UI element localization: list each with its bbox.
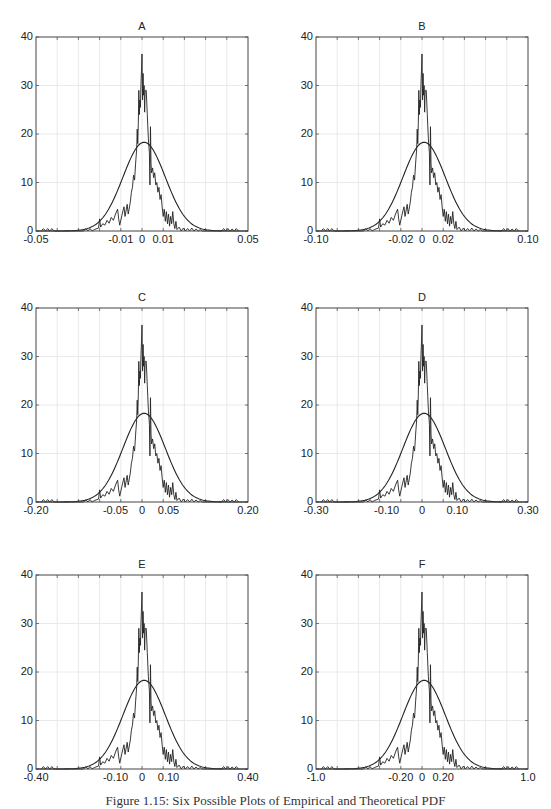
- y-tick-label: 30: [13, 350, 33, 362]
- chart-panel-c: C010203040-0.20-0.0500.050.20: [36, 308, 248, 502]
- y-tick-label: 20: [13, 398, 33, 410]
- x-tick-label: -1.0: [296, 771, 336, 783]
- x-tick-label: 0.05: [149, 504, 189, 516]
- x-tick-label: 0.10: [437, 504, 477, 516]
- x-tick-label: 0.20: [423, 771, 463, 783]
- x-tick-label: 0.05: [228, 233, 268, 245]
- x-tick-label: 0.10: [508, 233, 548, 245]
- empirical-pdf-curve: [321, 54, 518, 231]
- y-tick-label: 40: [13, 301, 33, 313]
- chart-panel-a: A010203040-0.05-0.0100.010.05: [36, 37, 248, 231]
- x-tick-label: 0.30: [508, 504, 548, 516]
- y-tick-label: 30: [293, 350, 313, 362]
- chart-title: A: [36, 20, 248, 32]
- x-tick-label: 0.01: [143, 233, 183, 245]
- x-tick-label: -0.40: [16, 771, 56, 783]
- chart-title: F: [316, 558, 528, 570]
- y-tick-label: 40: [13, 30, 33, 42]
- empirical-pdf-curve: [41, 54, 238, 231]
- y-tick-label: 40: [293, 30, 313, 42]
- y-tick-label: 20: [293, 127, 313, 139]
- y-tick-label: 10: [13, 447, 33, 459]
- y-tick-label: 10: [293, 714, 313, 726]
- x-tick-label: 0.40: [228, 771, 268, 783]
- y-tick-label: 30: [13, 617, 33, 629]
- empirical-pdf-curve: [321, 592, 518, 769]
- chart-title: E: [36, 558, 248, 570]
- empirical-pdf-curve: [41, 325, 238, 502]
- y-tick-label: 40: [13, 568, 33, 580]
- chart-title: B: [316, 20, 528, 32]
- empirical-pdf-curve: [321, 325, 518, 502]
- y-tick-label: 20: [13, 665, 33, 677]
- y-tick-label: 10: [13, 176, 33, 188]
- y-tick-label: 30: [293, 79, 313, 91]
- chart-panel-d: D010203040-0.30-0.1000.100.30: [316, 308, 528, 502]
- plot-area: [36, 37, 248, 231]
- chart-panel-b: B010203040-0.10-0.0200.020.10: [316, 37, 528, 231]
- plot-area: [316, 37, 528, 231]
- empirical-pdf-curve: [41, 592, 238, 769]
- x-tick-label: -0.20: [16, 504, 56, 516]
- y-tick-label: 10: [293, 176, 313, 188]
- x-tick-label: -0.10: [296, 233, 336, 245]
- y-tick-label: 40: [293, 301, 313, 313]
- x-tick-label: -0.30: [296, 504, 336, 516]
- figure-caption: Figure 1.15: Six Possible Plots of Empir…: [0, 793, 551, 809]
- x-tick-label: 0: [402, 504, 442, 516]
- x-tick-label: 0.02: [423, 233, 463, 245]
- y-tick-label: 20: [293, 665, 313, 677]
- y-tick-label: 40: [293, 568, 313, 580]
- x-tick-label: 0.20: [228, 504, 268, 516]
- y-tick-label: 20: [13, 127, 33, 139]
- x-tick-label: 1.0: [508, 771, 548, 783]
- x-tick-label: -0.05: [16, 233, 56, 245]
- y-tick-label: 20: [293, 398, 313, 410]
- x-tick-label: 0.10: [149, 771, 189, 783]
- y-tick-label: 10: [13, 714, 33, 726]
- y-tick-label: 30: [13, 79, 33, 91]
- y-tick-label: 30: [293, 617, 313, 629]
- y-tick-label: 10: [293, 447, 313, 459]
- chart-title: C: [36, 291, 248, 303]
- plot-area: [316, 575, 528, 769]
- plot-area: [36, 308, 248, 502]
- plot-area: [316, 308, 528, 502]
- plot-area: [36, 575, 248, 769]
- chart-panel-f: F010203040-1.0-0.2000.201.0: [316, 575, 528, 769]
- chart-title: D: [316, 291, 528, 303]
- chart-panel-e: E010203040-0.40-0.1000.100.40: [36, 575, 248, 769]
- x-tick-label: -0.10: [367, 504, 407, 516]
